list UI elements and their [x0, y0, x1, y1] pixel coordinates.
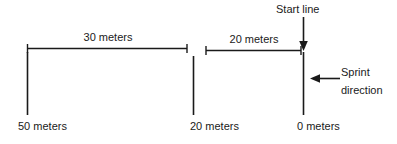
marker-label-0-meters: 0 meters — [297, 120, 340, 133]
dimension-label-20-meters: 20 meters — [207, 33, 301, 46]
marker-label-50-meters: 50 meters — [18, 120, 67, 133]
sprint-distance-diagram: 30 meters 20 meters Start line Sprint di… — [0, 0, 397, 144]
sprint-direction-arrow-left-icon — [310, 74, 340, 83]
dimension-line-30-meters — [28, 44, 188, 53]
sprint-direction-label-line1: Sprint — [341, 66, 370, 79]
marker-label-20-meters: 20 meters — [190, 120, 239, 133]
dimension-line-20-meters — [206, 46, 301, 55]
sprint-direction-label-line2: direction — [341, 84, 383, 97]
start-line-label: Start line — [276, 3, 319, 16]
dimension-label-30-meters: 30 meters — [57, 31, 159, 44]
